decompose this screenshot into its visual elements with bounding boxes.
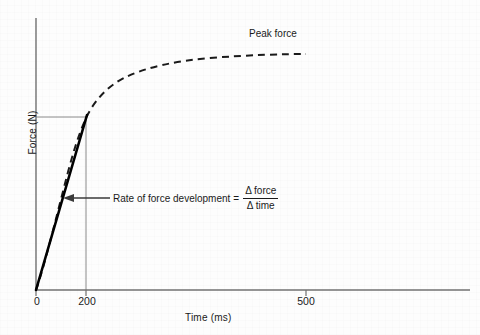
peak-force-annotation-label: Peak force (249, 28, 297, 39)
force-time-chart-figure: Force (N) Time (ms) 0 200 500 Peak force… (0, 0, 480, 335)
rate-of-force-development-line (36, 115, 87, 290)
force-time-curve (36, 54, 306, 290)
rfd-equals-sign: = (233, 193, 239, 204)
y-axis-title: Force (N) (27, 103, 38, 163)
rfd-annotation-text: Rate of force development (113, 193, 230, 204)
rfd-fraction: Δ force Δ time (243, 185, 278, 211)
rfd-fraction-numerator: Δ force (243, 185, 278, 199)
x-tick-label-200: 200 (73, 295, 101, 307)
chart-plot-area (0, 0, 480, 335)
x-tick-label-500: 500 (292, 295, 320, 307)
rfd-fraction-denominator: Δ time (245, 199, 277, 212)
x-axis-title: Time (ms) (185, 312, 231, 323)
rate-of-force-development-annotation: Rate of force development = Δ force Δ ti… (113, 185, 278, 211)
x-tick-label-0: 0 (30, 295, 44, 307)
